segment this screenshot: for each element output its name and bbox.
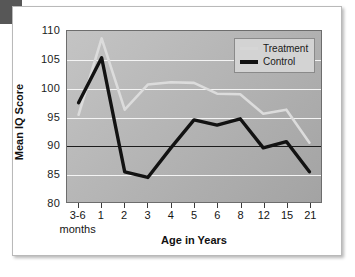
x-tick-mark-7 [241,203,242,208]
x-axis-title: Age in Years [66,234,322,246]
x-tick-label-6: 6 [214,209,220,221]
y-tick-label-80: 80 [47,197,60,209]
legend-swatch-treatment-icon [240,47,258,50]
x-tick-label-1: 1 [98,209,104,221]
legend-label-treatment: Treatment [263,42,308,55]
y-tick-label-95: 95 [47,111,60,123]
chart-screenshot: Mean IQ Score 11010510095908580 3-6month… [0,0,355,277]
x-tick-mark-6 [217,203,218,208]
x-tick-mark-10 [310,203,311,208]
x-tick-mark-3 [147,203,148,208]
y-tick-label-90: 90 [47,139,60,151]
y-tick-label-100: 100 [41,82,60,94]
legend-label-control: Control [263,55,295,68]
x-tick-mark-0 [78,203,79,208]
y-axis-tick-labels: 11010510095908580 [22,30,64,203]
x-tick-label-9: 15 [281,209,293,221]
x-tick-label-4: 4 [168,209,174,221]
x-tick-mark-4 [171,203,172,208]
x-tick-label-10: 21 [304,209,316,221]
y-tick-label-110: 110 [42,24,60,36]
x-tick-mark-5 [194,203,195,208]
x-tick-mark-1 [101,203,102,208]
x-tick-label-2: 2 [121,209,127,221]
x-tick-label-7: 8 [237,209,243,221]
x-tick-label-3: 3 [144,209,150,221]
chart-legend: Treatment Control [234,38,315,73]
x-tick-mark-2 [124,203,125,208]
x-tick-mark-8 [264,203,265,208]
y-tick-label-105: 105 [41,53,60,65]
legend-item-control: Control [240,55,308,68]
x-tick-label-8: 12 [258,209,270,221]
x-tick-label-5: 5 [191,209,197,221]
x-tick-mark-9 [287,203,288,208]
legend-item-treatment: Treatment [240,42,308,55]
x-tick-label-0: 3-6 [70,209,86,221]
y-tick-label-85: 85 [47,168,60,180]
legend-swatch-control-icon [240,60,258,64]
